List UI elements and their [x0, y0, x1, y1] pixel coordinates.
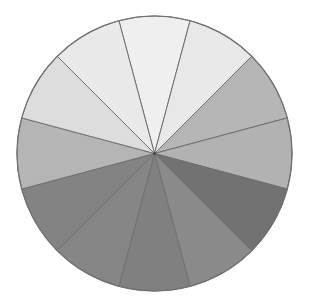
pie-center-point [153, 152, 156, 155]
pie-chart [0, 0, 310, 308]
pie-chart-canvas [0, 0, 310, 308]
